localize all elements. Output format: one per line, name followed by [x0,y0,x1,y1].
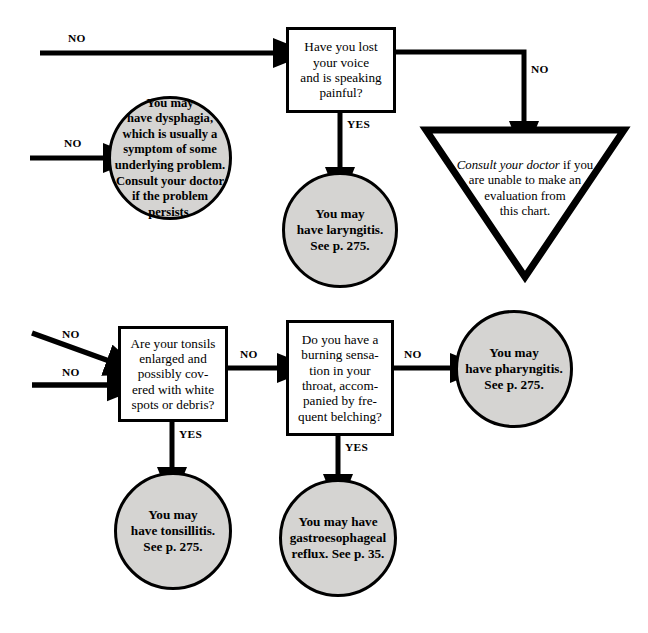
outcome-laryngitis-text: You may have laryngitis. See p. 275. [297,206,383,254]
decision-tonsils-text: Are your tonsils enlarged and possibly c… [131,336,216,413]
edge-label-no-to-voice: NO [68,32,86,44]
edge-label-no-a-to-tonsils: NO [62,328,80,340]
edge-label-yes-to-laryngitis: YES [347,118,370,130]
decision-tonsils[interactable]: Are your tonsils enlarged and possibly c… [118,326,228,422]
outcome-reflux[interactable]: You may have gastroesophageal reflux. Se… [279,479,397,597]
decision-lost-voice-text: Have you lost your voice and is speaking… [300,39,381,100]
decision-burning-sensation-text: Do you have a burning sensa- tion in you… [298,332,382,424]
outcome-consult-doctor-emphasis: Consult your doctor [457,158,560,172]
outcome-dysphagia-text: You may have dysphagia, which is usually… [115,96,225,221]
edge-label-no-b-to-tonsils: NO [62,366,80,378]
edge-no-to-consult [396,52,524,126]
edge-label-no-to-dysphagia: NO [64,137,82,149]
outcome-pharyngitis[interactable]: You may have pharyngitis. See p. 275. [455,310,573,428]
outcome-tonsillitis-text: You may have tonsillitis. See p. 275. [131,507,215,555]
decision-burning-sensation[interactable]: Do you have a burning sensa- tion in you… [286,320,394,436]
outcome-laryngitis[interactable]: You may have laryngitis. See p. 275. [282,172,398,288]
edge-label-yes-to-reflux: YES [345,441,368,453]
outcome-tonsillitis[interactable]: You may have tonsillitis. See p. 275. [114,472,232,590]
outcome-consult-doctor[interactable]: Consult your doctor if you are unable to… [440,158,610,219]
flowchart-canvas: Have you lost your voice and is speaking… [0,0,648,633]
edge-label-no-to-burning: NO [240,348,258,360]
edge-label-yes-to-tonsillitis: YES [179,428,202,440]
edge-label-no-to-consult: NO [531,63,549,75]
edge-label-no-to-pharyngitis: NO [404,348,422,360]
outcome-pharyngitis-text: You may have pharyngitis. See p. 275. [465,345,562,393]
outcome-reflux-text: You may have gastroesophageal reflux. Se… [290,514,386,562]
decision-lost-voice[interactable]: Have you lost your voice and is speaking… [286,27,396,113]
outcome-dysphagia[interactable]: You may have dysphagia, which is usually… [108,96,232,220]
